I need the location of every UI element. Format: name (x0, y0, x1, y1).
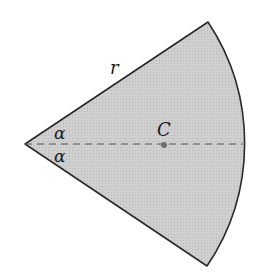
centroid-point (161, 142, 167, 148)
alpha-top-label: α (54, 123, 66, 143)
alpha-bottom-label: α (54, 146, 66, 166)
radius-label: r (110, 57, 120, 78)
centroid-label: C (157, 119, 171, 140)
sector-diagram: r α α C (0, 0, 264, 277)
